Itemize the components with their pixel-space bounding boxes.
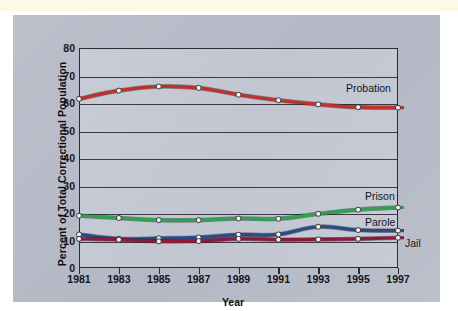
data-point-marker xyxy=(196,85,201,90)
data-point-marker xyxy=(316,237,321,242)
y-axis-title-wrap: Percent of Total Correctional Population xyxy=(41,15,42,16)
data-point-marker xyxy=(196,218,201,223)
x-axis-title: Year xyxy=(13,296,453,308)
y-tick-label-80: 80 xyxy=(47,43,75,54)
data-point-marker xyxy=(356,228,361,233)
data-point-marker xyxy=(356,207,361,212)
data-point-marker xyxy=(236,216,241,221)
data-point-marker xyxy=(356,105,361,110)
series-jail xyxy=(77,235,405,244)
data-point-marker xyxy=(316,224,321,229)
series-prison xyxy=(77,205,405,223)
data-point-marker xyxy=(396,205,401,210)
x-tick-mark-1991 xyxy=(278,268,279,274)
series-label-jail: Jail xyxy=(405,238,421,249)
x-tick-mark-1997 xyxy=(398,268,399,274)
data-point-marker xyxy=(156,239,161,244)
series-label-parole: Parole xyxy=(365,217,395,228)
x-tick-label-1997: 1997 xyxy=(386,273,409,285)
data-point-marker xyxy=(196,239,201,244)
x-tick-label-1987: 1987 xyxy=(187,273,210,285)
data-point-marker xyxy=(316,211,321,216)
series-label-probation: Probation xyxy=(346,83,391,94)
left-margin xyxy=(0,11,13,311)
x-tick-mark-1981 xyxy=(79,268,80,274)
data-point-marker xyxy=(236,92,241,97)
data-point-marker xyxy=(356,236,361,241)
data-point-marker xyxy=(396,228,401,233)
right-margin xyxy=(440,11,458,311)
x-tick-label-1983: 1983 xyxy=(107,273,130,285)
data-point-marker xyxy=(396,105,401,110)
data-point-marker xyxy=(77,236,82,241)
x-tick-label-1981: 1981 xyxy=(67,273,90,285)
data-point-marker xyxy=(116,215,121,220)
series-lines xyxy=(79,48,398,268)
x-tick-label-1989: 1989 xyxy=(227,273,250,285)
y-axis-title: Percent of Total Correctional Population xyxy=(56,59,68,269)
data-point-marker xyxy=(77,213,82,218)
x-tick-label-1995: 1995 xyxy=(346,273,369,285)
x-axis-ticks: 198119831985198719891991199319951997 xyxy=(13,273,458,289)
series-label-prison: Prison xyxy=(365,191,395,202)
x-tick-mark-1983 xyxy=(119,268,120,274)
data-point-marker xyxy=(156,218,161,223)
x-tick-mark-1995 xyxy=(358,268,359,274)
x-tick-label-1985: 1985 xyxy=(147,273,170,285)
data-point-marker xyxy=(77,96,82,101)
x-tick-label-1991: 1991 xyxy=(267,273,290,285)
x-tick-mark-1987 xyxy=(199,268,200,274)
data-point-marker xyxy=(156,84,161,89)
data-point-marker xyxy=(276,98,281,103)
data-point-marker xyxy=(236,236,241,241)
data-point-marker xyxy=(316,102,321,107)
x-tick-mark-1985 xyxy=(159,268,160,274)
top-color-strip xyxy=(0,0,458,11)
data-point-marker xyxy=(116,88,121,93)
x-tick-mark-1993 xyxy=(318,268,319,274)
data-point-marker xyxy=(116,237,121,242)
x-tick-mark-1989 xyxy=(239,268,240,274)
x-tick-label-1993: 1993 xyxy=(307,273,330,285)
data-point-marker xyxy=(276,216,281,221)
data-point-marker xyxy=(396,235,401,240)
chart-panel: 01020304050607080 1981198319851987198919… xyxy=(13,15,440,302)
data-point-marker xyxy=(276,237,281,242)
data-point-marker xyxy=(276,232,281,237)
